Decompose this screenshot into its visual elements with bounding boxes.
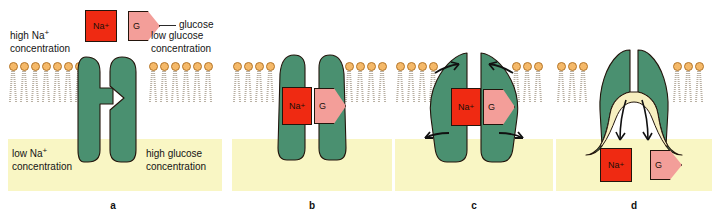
conc-sup: +	[44, 28, 49, 37]
lipid-head	[149, 62, 158, 71]
membrane-bilayer-b-left	[232, 62, 284, 144]
glucose-label: G	[655, 160, 662, 170]
conc-line-1: high Na	[10, 30, 44, 41]
lipid-tails	[674, 71, 682, 102]
lipid-tail	[527, 71, 531, 102]
lipid-tails	[267, 71, 275, 102]
lipid-head	[418, 62, 427, 71]
lipid-tails	[397, 71, 405, 102]
glucose-label: G	[488, 102, 495, 112]
lipid-tails	[524, 71, 532, 102]
lipid-tail	[371, 71, 375, 102]
lipid-tails	[368, 71, 376, 102]
membrane-bilayer-a-right	[148, 62, 222, 144]
lipid-head	[367, 62, 376, 71]
leaflet-upper	[344, 62, 392, 103]
lipid-head	[171, 62, 180, 71]
lipid-head	[557, 62, 566, 71]
lipid-tail	[68, 71, 72, 102]
lipid-tail	[186, 71, 190, 102]
lipid-tails	[161, 71, 169, 102]
lipid-tail	[538, 71, 542, 102]
sodium-label: Na	[289, 102, 301, 111]
lipid-tail	[57, 71, 61, 102]
panel-d: Na+ G d	[556, 0, 712, 213]
lipid-head	[20, 62, 29, 71]
lipid-head	[684, 62, 693, 71]
lipid-tail	[248, 71, 252, 102]
membrane-bilayer-d-right	[672, 62, 712, 144]
lipid-tail	[259, 71, 263, 102]
lipid-tail	[422, 71, 426, 102]
lipid-tail	[46, 71, 50, 102]
leaflet-upper	[556, 62, 598, 103]
lipid-head	[378, 62, 387, 71]
leaflet-upper	[511, 62, 553, 103]
lipid-head	[345, 62, 354, 71]
cytoplasm-region-c	[395, 139, 553, 191]
sodium-ion-released-d: Na+	[600, 148, 632, 182]
label-high-na-concentration: high Na+ concentration	[10, 30, 70, 55]
lipid-tail	[411, 71, 415, 102]
lipid-tail	[208, 71, 212, 102]
panel-a: Na+ G glucose high Na+ concentration low…	[0, 0, 226, 213]
lipid-tails	[685, 71, 693, 102]
membrane-bilayer-c-left	[395, 62, 439, 144]
lipid-head	[429, 62, 438, 71]
lipid-head	[579, 62, 588, 71]
leaflet-upper	[8, 62, 88, 103]
leaflet-lower	[511, 103, 553, 144]
leaflet-lower	[8, 103, 88, 144]
lipid-head	[193, 62, 202, 71]
leaflet-lower	[672, 103, 712, 144]
membrane-bilayer-d-left	[556, 62, 598, 144]
lipid-tails	[256, 71, 264, 102]
lipid-tails	[150, 71, 158, 102]
lipid-tails	[65, 71, 73, 102]
lipid-tails	[569, 71, 577, 102]
lipid-head	[9, 62, 18, 71]
label-high-glucose-concentration: high glucose concentration	[146, 148, 206, 173]
lipid-tail	[349, 71, 353, 102]
lipid-tail	[400, 71, 404, 102]
leaflet-lower	[395, 103, 439, 144]
conc-line-2: concentration	[146, 161, 206, 172]
lipid-tail	[153, 71, 157, 102]
lipid-tail	[433, 71, 437, 102]
lipid-tails	[408, 71, 416, 102]
conc-line-1: low glucose	[151, 30, 203, 41]
lipid-tail	[164, 71, 168, 102]
glucose-leader-text: glucose	[179, 19, 213, 30]
leaflet-lower	[556, 103, 598, 144]
lipid-tail	[175, 71, 179, 102]
lipid-tail	[197, 71, 201, 102]
lipid-head	[182, 62, 191, 71]
lipid-tails	[430, 71, 438, 102]
lipid-tail	[516, 71, 520, 102]
lipid-tails	[357, 71, 365, 102]
sodium-ion-bound-b: Na+	[282, 87, 312, 125]
lipid-tail	[561, 71, 565, 102]
cytoplasm-region-b	[232, 139, 392, 191]
glucose-bound-b: G	[314, 88, 346, 124]
lipid-tails	[43, 71, 51, 102]
lipid-head	[695, 62, 704, 71]
panel-b: Na+ G b	[232, 0, 392, 213]
lipid-tails	[21, 71, 29, 102]
lipid-head	[266, 62, 275, 71]
lipid-head	[31, 62, 40, 71]
glucose-label: G	[319, 101, 326, 111]
lipid-head	[512, 62, 521, 71]
sodium-label: Na	[608, 161, 620, 170]
lipid-tail	[79, 71, 83, 102]
panel-label-b: b	[232, 200, 392, 211]
conc-line-2: concentration	[12, 161, 72, 172]
glucose-label: G	[133, 21, 140, 31]
membrane-bilayer-c-right	[511, 62, 553, 144]
lipid-head	[233, 62, 242, 71]
panel-c: Na+ G c	[395, 0, 553, 213]
leaflet-lower	[232, 103, 284, 144]
lipid-tails	[580, 71, 588, 102]
lipid-head	[523, 62, 532, 71]
cytoplasm-region-d	[556, 139, 712, 191]
